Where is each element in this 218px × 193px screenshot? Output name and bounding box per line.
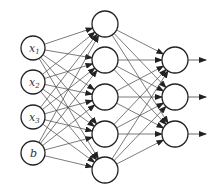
edge <box>40 70 97 143</box>
edge <box>45 50 92 58</box>
edge <box>45 137 93 150</box>
edge <box>112 71 168 159</box>
hidden-node <box>92 84 118 110</box>
hidden-node <box>92 11 118 37</box>
input-node: x3 <box>21 105 45 129</box>
edge <box>43 55 94 90</box>
edge <box>117 30 164 54</box>
output-node <box>162 47 188 73</box>
node-label: b <box>30 147 37 160</box>
output-node <box>162 84 188 110</box>
hidden-node <box>92 157 118 183</box>
hidden-node <box>92 121 118 147</box>
input-node: x1 <box>21 36 45 60</box>
edge <box>42 32 95 74</box>
edge <box>39 35 99 142</box>
edge <box>44 28 92 44</box>
hidden-node <box>92 47 118 73</box>
edge <box>41 57 97 124</box>
neural-network-diagram: x1x2x3b <box>0 0 218 193</box>
output-node <box>162 121 188 147</box>
edge <box>45 156 93 167</box>
edge <box>112 35 168 123</box>
edge <box>40 34 97 107</box>
edge <box>117 140 164 164</box>
nodes: x1x2x3b <box>21 11 188 183</box>
input-node: b <box>21 141 45 165</box>
input-node: x2 <box>21 70 45 94</box>
